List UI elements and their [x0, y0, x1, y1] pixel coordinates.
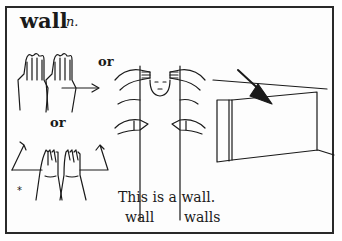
plural-form: walls	[184, 209, 220, 225]
example-sentence: This is a wall.	[118, 189, 215, 205]
singular-form: wall	[125, 209, 154, 225]
flat-hands-illustration	[18, 54, 99, 112]
hands-spreading-illustration	[12, 142, 108, 200]
dictionary-card: wall n. or or *	[0, 0, 342, 241]
wall-illustration	[213, 70, 334, 162]
